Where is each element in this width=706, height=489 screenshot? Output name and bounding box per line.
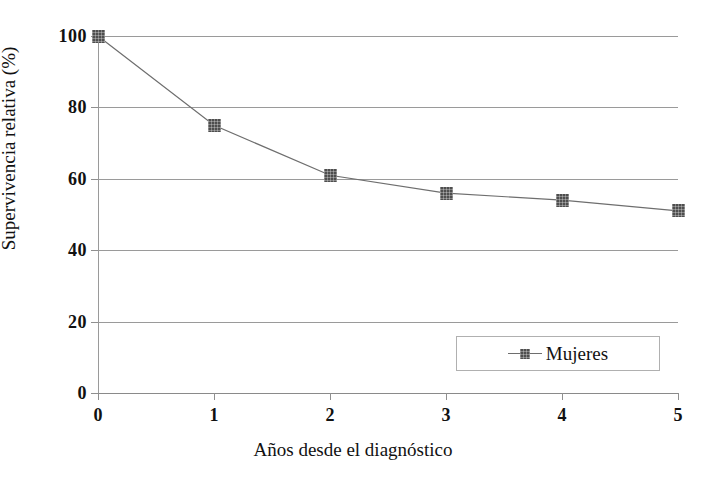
legend-item-label: Mujeres: [546, 344, 608, 363]
x-tick-label-2: 2: [326, 406, 335, 424]
chart-legend[interactable]: Mujeres: [456, 336, 660, 371]
y-tick-0: [91, 393, 98, 394]
y-tick-20: [91, 322, 98, 323]
x-tick-label-5: 5: [674, 406, 683, 424]
legend-marker-icon: [508, 347, 542, 360]
y-tick-label-80: 80: [68, 98, 87, 116]
x-tick-4: [562, 393, 563, 400]
x-tick-label-1: 1: [210, 406, 219, 424]
data-point-2: [324, 169, 337, 182]
y-tick-label-40: 40: [68, 241, 87, 259]
y-tick-label-60: 60: [68, 170, 87, 188]
x-axis-title: Años desde el diagnóstico: [0, 440, 706, 459]
y-tick-40: [91, 250, 98, 251]
x-tick-0: [98, 393, 99, 400]
x-tick-1: [214, 393, 215, 400]
data-point-0: [92, 30, 105, 43]
y-tick-80: [91, 107, 98, 108]
x-tick-label-0: 0: [94, 406, 103, 424]
y-tick-label-0: 0: [78, 384, 88, 402]
legend-square-icon: [520, 349, 530, 359]
x-tick-3: [446, 393, 447, 400]
y-tick-60: [91, 179, 98, 180]
x-tick-label-4: 4: [558, 406, 567, 424]
data-point-4: [556, 194, 569, 207]
y-tick-label-20: 20: [68, 313, 87, 331]
data-point-1: [208, 119, 221, 132]
y-axis-title: Supervivencia relativa (%): [0, 0, 18, 409]
x-tick-label-3: 3: [442, 406, 451, 424]
x-tick-2: [330, 393, 331, 400]
gridline-0: 0: [98, 393, 678, 394]
y-tick-label-100: 100: [59, 27, 88, 45]
x-tick-5: [678, 393, 679, 400]
chart-figure: 020406080100 012345 Supervivencia relati…: [0, 0, 706, 489]
data-point-5: [672, 204, 685, 217]
data-point-3: [440, 187, 453, 200]
legend-item-mujeres[interactable]: Mujeres: [508, 344, 608, 363]
